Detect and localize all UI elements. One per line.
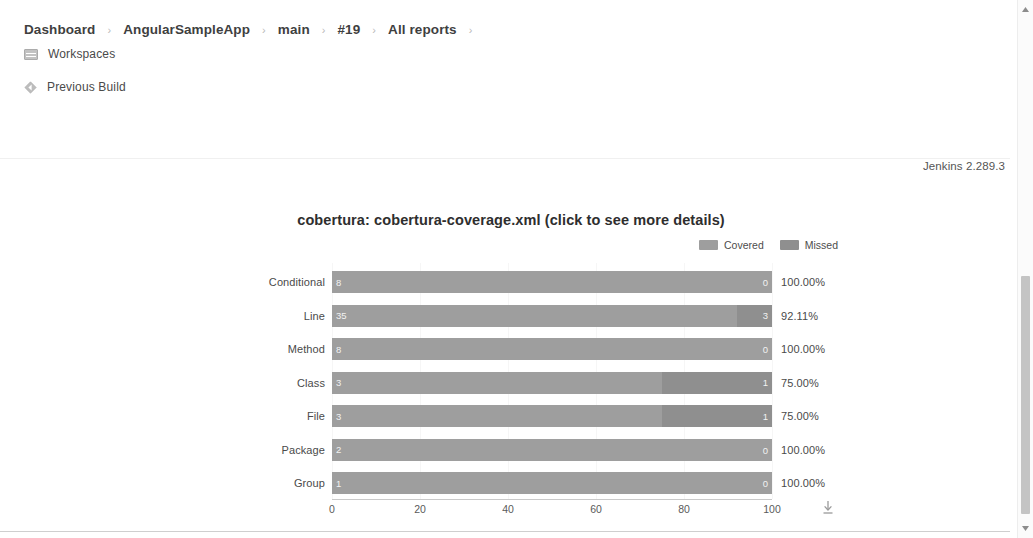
breadcrumb-separator-icon: › xyxy=(262,24,266,36)
bar-segment-covered[interactable]: 3 xyxy=(332,372,662,394)
bar-value-missed: 0 xyxy=(759,344,772,355)
menu-item-workspaces[interactable]: Workspaces xyxy=(24,47,115,61)
bar-segment-missed[interactable]: 1 xyxy=(662,405,772,427)
x-axis-tick-label: 100 xyxy=(763,503,781,515)
jenkins-version-label: Jenkins 2.289.3 xyxy=(923,160,1005,172)
bar-category-label: Line xyxy=(0,310,332,322)
x-axis-tick-label: 0 xyxy=(329,503,335,515)
workspaces-icon xyxy=(24,49,38,60)
scroll-down-arrow-icon[interactable] xyxy=(1018,521,1033,536)
breadcrumb-separator-icon: › xyxy=(107,24,111,36)
bar-track: 31 xyxy=(332,405,772,427)
breadcrumb-bar: Dashboard›AngularSampleApp›main›#19›All … xyxy=(0,0,1010,37)
scroll-up-arrow-icon[interactable] xyxy=(1018,2,1033,17)
bar-value-covered: 2 xyxy=(332,444,345,455)
bar-track: 353 xyxy=(332,305,772,327)
bar-percent-label: 92.11% xyxy=(772,310,818,322)
x-axis-tick-label: 40 xyxy=(502,503,514,515)
previous-build-icon xyxy=(24,81,37,94)
bar-percent-label: 75.00% xyxy=(772,377,819,389)
bar-category-label: Class xyxy=(0,377,332,389)
bar-category-label: Conditional xyxy=(0,276,332,288)
coverage-chart-panel: cobertura: cobertura-coverage.xml (click… xyxy=(0,212,1010,518)
menu-item-previous-build[interactable]: Previous Build xyxy=(24,80,126,94)
breadcrumb-item-dashboard[interactable]: Dashboard xyxy=(24,22,95,37)
bar-row[interactable]: File3175.00% xyxy=(0,405,1010,427)
page-bottom-rule xyxy=(0,531,1010,532)
bar-row[interactable]: Conditional80100.00% xyxy=(0,271,1010,293)
legend-swatch-missed-icon xyxy=(780,240,799,250)
bar-row[interactable]: Package20100.00% xyxy=(0,439,1010,461)
chart-legend: CoveredMissed xyxy=(0,239,1010,251)
bar-row[interactable]: Line35392.11% xyxy=(0,305,1010,327)
x-axis-tick-label: 80 xyxy=(678,503,690,515)
legend-item-missed[interactable]: Missed xyxy=(780,239,838,251)
bar-value-missed: 3 xyxy=(759,310,772,321)
vertical-scrollbar[interactable] xyxy=(1017,0,1033,538)
bar-percent-label: 100.00% xyxy=(772,343,825,355)
bar-category-label: File xyxy=(0,410,332,422)
breadcrumb: Dashboard›AngularSampleApp›main›#19›All … xyxy=(24,22,1010,37)
bar-value-covered: 8 xyxy=(332,277,345,288)
bar-track: 31 xyxy=(332,372,772,394)
bar-row[interactable]: Class3175.00% xyxy=(0,372,1010,394)
bar-percent-label: 75.00% xyxy=(772,410,819,422)
bar-row[interactable]: Group10100.00% xyxy=(0,472,1010,494)
x-axis-tick-label: 20 xyxy=(414,503,426,515)
bar-percent-label: 100.00% xyxy=(772,477,825,489)
legend-item-covered[interactable]: Covered xyxy=(699,239,764,251)
bar-category-label: Group xyxy=(0,477,332,489)
bar-percent-label: 100.00% xyxy=(772,444,825,456)
bar-value-missed: 0 xyxy=(759,444,772,455)
breadcrumb-separator-icon: › xyxy=(469,24,473,36)
breadcrumb-item-all-reports[interactable]: All reports xyxy=(388,22,457,37)
bar-value-missed: 0 xyxy=(759,478,772,489)
breadcrumb-separator-icon: › xyxy=(322,24,326,36)
breadcrumb-separator-icon: › xyxy=(372,24,376,36)
legend-label: Covered xyxy=(724,239,764,251)
section-divider xyxy=(0,158,1010,159)
bar-row[interactable]: Method80100.00% xyxy=(0,338,1010,360)
bar-segment-covered[interactable]: 3 xyxy=(332,405,662,427)
breadcrumb-item-angularsampleapp[interactable]: AngularSampleApp xyxy=(123,22,250,37)
bar-segment-missed[interactable]: 1 xyxy=(662,372,772,394)
bar-value-covered: 3 xyxy=(332,377,345,388)
bar-value-covered: 8 xyxy=(332,344,345,355)
bar-segment-covered[interactable]: 2 xyxy=(332,439,772,461)
bar-value-missed: 1 xyxy=(759,377,772,388)
bar-track: 80 xyxy=(332,338,772,360)
bar-percent-label: 100.00% xyxy=(772,276,825,288)
bar-value-missed: 1 xyxy=(759,411,772,422)
breadcrumb-item-main[interactable]: main xyxy=(278,22,310,37)
bar-value-missed: 0 xyxy=(759,277,772,288)
bar-category-label: Method xyxy=(0,343,332,355)
bar-track: 10 xyxy=(332,472,772,494)
legend-label: Missed xyxy=(805,239,838,251)
menu-item-workspaces-label: Workspaces xyxy=(48,47,115,61)
x-axis-line xyxy=(332,499,772,500)
bar-segment-covered[interactable]: 8 xyxy=(332,338,772,360)
menu-item-previous-build-label: Previous Build xyxy=(47,80,126,94)
breadcrumb-item-19[interactable]: #19 xyxy=(338,22,361,37)
bar-track: 20 xyxy=(332,439,772,461)
chart-title[interactable]: cobertura: cobertura-coverage.xml (click… xyxy=(0,212,1010,228)
bar-segment-covered[interactable]: 8 xyxy=(332,271,772,293)
bar-category-label: Package xyxy=(0,444,332,456)
download-icon[interactable] xyxy=(820,499,836,516)
legend-swatch-covered-icon xyxy=(699,240,718,250)
scrollbar-thumb[interactable] xyxy=(1021,276,1030,514)
bar-segment-covered[interactable]: 1 xyxy=(332,472,772,494)
coverage-bar-chart: Conditional80100.00%Line35392.11%Method8… xyxy=(0,263,1010,518)
bar-segment-covered[interactable]: 35 xyxy=(332,305,737,327)
bar-value-covered: 1 xyxy=(332,478,345,489)
bar-segment-missed[interactable]: 3 xyxy=(737,305,772,327)
x-axis-tick-label: 60 xyxy=(590,503,602,515)
bar-track: 80 xyxy=(332,271,772,293)
bar-value-covered: 3 xyxy=(332,411,345,422)
bar-value-covered: 35 xyxy=(332,310,351,321)
